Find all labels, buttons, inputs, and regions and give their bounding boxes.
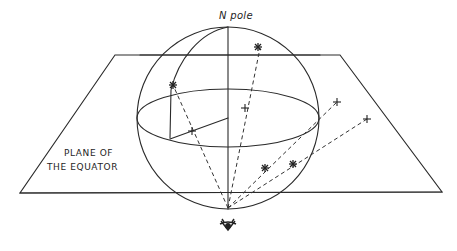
north-pole-label: N pole [219, 10, 253, 21]
projection-line-4 [228, 119, 367, 208]
celestial-sphere-diagram [0, 0, 457, 251]
equator-radius [170, 118, 228, 139]
plane-label-line1: PLANE OF [64, 148, 113, 158]
plus-symbol [188, 98, 371, 135]
equatorial-plane [20, 55, 442, 193]
plane-label-line2: THE EQUATOR [47, 162, 118, 172]
eye-icon [220, 219, 236, 230]
projection-line-2 [228, 48, 260, 208]
star-symbol [169, 43, 297, 172]
